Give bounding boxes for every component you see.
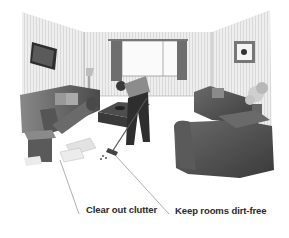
label-clear-out-clutter: Clear out clutter (86, 204, 157, 215)
window-icon (108, 39, 188, 81)
leader-line-clutter (60, 160, 79, 214)
label-keep-rooms-dirt-free: Keep rooms dirt-free (175, 205, 266, 216)
wall-picture-icon (234, 41, 255, 63)
living-room-illustration (0, 0, 289, 238)
